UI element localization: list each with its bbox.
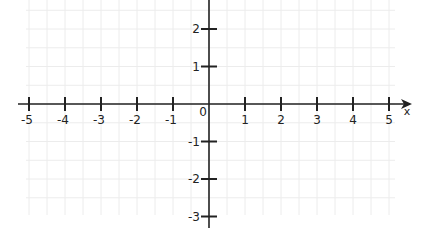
x-tick-label: -5 [21, 113, 33, 127]
x-tick-label: -4 [57, 113, 69, 127]
x-tick-label: -3 [93, 113, 105, 127]
x-tick-label: -2 [129, 113, 141, 127]
x-tick-label: 4 [349, 113, 357, 127]
x-tick-label: -1 [165, 113, 177, 127]
x-axis-label: x [404, 105, 411, 118]
y-tick-label: 1 [192, 60, 200, 74]
x-tick-label: 3 [313, 113, 321, 127]
y-tick-label: -3 [188, 210, 200, 224]
y-tick-label: -1 [188, 135, 200, 149]
y-tick-label: -2 [188, 172, 200, 186]
origin-label: 0 [199, 105, 207, 119]
x-tick-label: 1 [241, 113, 249, 127]
grid-lines [26, 0, 395, 215]
x-tick-label: 5 [385, 113, 393, 127]
y-tick-label: 2 [192, 22, 200, 36]
x-tick-label: 2 [277, 113, 285, 127]
